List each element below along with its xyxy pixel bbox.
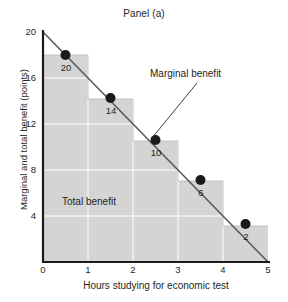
total-benefit-annotation: Total benefit bbox=[62, 196, 116, 207]
data-point-label-1: 20 bbox=[57, 62, 75, 73]
bar-hour-3 bbox=[133, 141, 178, 262]
bar-hour-2 bbox=[88, 99, 133, 262]
data-point-1 bbox=[61, 50, 71, 60]
marginal-benefit-annotation: Marginal benefit bbox=[150, 68, 221, 79]
data-point-label-5: 2 bbox=[237, 231, 255, 242]
plot-area bbox=[0, 0, 288, 302]
chart-figure: Panel (a) Marginal and total benefit (po… bbox=[0, 0, 288, 302]
bar-hour-1 bbox=[43, 55, 88, 262]
data-point-label-4: 6 bbox=[192, 187, 210, 198]
data-point-5 bbox=[241, 219, 251, 229]
data-point-2 bbox=[106, 93, 116, 103]
data-point-label-2: 14 bbox=[102, 105, 120, 116]
data-point-label-3: 10 bbox=[147, 147, 165, 158]
data-point-4 bbox=[196, 175, 206, 185]
data-point-3 bbox=[151, 135, 161, 145]
